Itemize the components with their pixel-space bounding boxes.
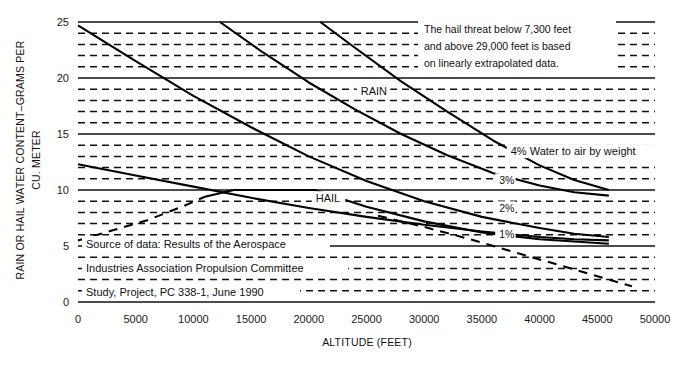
x-axis-tick-label: 5000 xyxy=(123,313,147,325)
note-line: on linearly extrapolated data. xyxy=(424,57,559,69)
x-axis-tick-label: 35000 xyxy=(467,313,498,325)
x-axis-tick-label: 40000 xyxy=(524,313,555,325)
note-line: The hail threat below 7,300 feet xyxy=(424,23,571,35)
y-axis-tick-label: 15 xyxy=(57,128,69,140)
note-line: and above 29,000 feet is based xyxy=(424,40,571,52)
extrapolation-note: The hail threat below 7,300 feetand abov… xyxy=(418,21,616,76)
source-line: Industries Association Propulsion Commit… xyxy=(86,262,304,274)
y-axis-tick-label: 20 xyxy=(57,72,69,84)
y-axis-title-line2: CU. METER xyxy=(30,130,42,190)
annotation-2: 2% xyxy=(499,202,514,214)
y-axis-tick-label: 0 xyxy=(63,296,69,308)
x-axis-tick-label: 20000 xyxy=(294,313,325,325)
annotation-3: 3% xyxy=(499,174,514,186)
x-axis-tick-label: 30000 xyxy=(409,313,440,325)
y-axis-tick-label: 5 xyxy=(63,240,69,252)
x-axis-tick-label: 25000 xyxy=(351,313,382,325)
x-axis-tick-label: 45000 xyxy=(582,313,613,325)
rain-hail-water-content-chart: 0510152025 05000100001500020000250003000… xyxy=(0,0,683,372)
y-axis-tick-label: 25 xyxy=(57,16,69,28)
source-line: Study, Project, PC 338-1, June 1990 xyxy=(86,286,264,298)
x-axis-tick-label: 10000 xyxy=(178,313,209,325)
chart-container: 0510152025 05000100001500020000250003000… xyxy=(0,0,683,372)
x-axis-title: ALTITUDE (FEET) xyxy=(322,336,412,348)
annotation-1: 1% xyxy=(499,228,514,240)
annotation-rain: RAIN xyxy=(361,85,387,97)
x-axis-tick-label: 15000 xyxy=(236,313,267,325)
y-axis-title-line1: RAIN OR HAIL WATER CONTENT–GRAMS PER xyxy=(14,40,26,279)
annotation-hail: HAIL xyxy=(316,192,340,204)
annotation-4-water-to-air-by-weight: 4% Water to air by weight xyxy=(511,145,636,157)
source-line: Source of data: Results of the Aerospace xyxy=(86,238,286,250)
x-axis-tick-label: 0 xyxy=(75,313,81,325)
y-axis-tick-label: 10 xyxy=(57,184,69,196)
x-axis-tick-label: 50000 xyxy=(640,313,671,325)
